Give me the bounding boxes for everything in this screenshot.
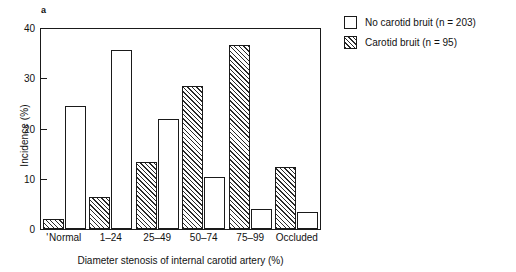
x-axis-category-labels: Normal1–2425–4950–7475–99Occluded xyxy=(40,232,321,248)
bar-bruit xyxy=(182,86,203,229)
legend-item-bruit: Carotid bruit (n = 95) xyxy=(344,36,476,49)
bar-no-bruit xyxy=(65,106,86,229)
bar-no-bruit xyxy=(251,209,272,229)
bar-no-bruit xyxy=(111,50,132,229)
y-tick-label: 40 xyxy=(24,23,35,34)
bar-group xyxy=(181,28,228,229)
bar-no-bruit xyxy=(158,119,179,229)
axis-bottom-line xyxy=(40,229,321,230)
x-axis-title: Diameter stenosis of internal carotid ar… xyxy=(40,255,321,266)
plot-area: 010203040 xyxy=(40,28,321,230)
x-category-label: Occluded xyxy=(276,232,318,243)
x-category-label: 75–99 xyxy=(236,232,264,243)
panel-label: a xyxy=(41,6,46,15)
bar-bruit xyxy=(229,45,250,229)
legend-swatch-hatched-icon xyxy=(344,36,357,49)
legend-item-no-bruit: No carotid bruit (n = 203) xyxy=(344,16,476,29)
x-category-label: 25–49 xyxy=(143,232,171,243)
bar-group xyxy=(41,28,88,229)
y-tick-label: 0 xyxy=(29,224,35,235)
bar-no-bruit xyxy=(297,212,318,229)
y-axis-title: Incidence (%) xyxy=(19,66,30,206)
legend-label-bruit: Carotid bruit (n = 95) xyxy=(365,36,457,49)
bar-series-container xyxy=(41,28,320,229)
legend-label-no-bruit: No carotid bruit (n = 203) xyxy=(365,16,476,29)
y-tick-label: 30 xyxy=(24,73,35,84)
x-category-label: Normal xyxy=(47,232,81,243)
axis-right-line xyxy=(320,28,321,230)
y-tick-label: 10 xyxy=(24,173,35,184)
bar-bruit xyxy=(136,162,157,229)
bar-no-bruit xyxy=(204,177,225,229)
bar-bruit xyxy=(275,167,296,229)
bar-group xyxy=(274,28,321,229)
bar-group xyxy=(88,28,135,229)
figure-root: a Incidence (%) 010203040 Normal1–2425–4… xyxy=(0,0,516,272)
y-tick-label: 20 xyxy=(24,123,35,134)
y-tick-mark xyxy=(41,229,47,230)
x-category-label: 50–74 xyxy=(190,232,218,243)
x-category-label: 1–24 xyxy=(100,232,122,243)
bar-bruit xyxy=(43,219,64,229)
bar-bruit xyxy=(89,197,110,229)
legend-swatch-open-icon xyxy=(344,16,357,29)
legend: No carotid bruit (n = 203) Carotid bruit… xyxy=(344,16,476,56)
bar-group xyxy=(227,28,274,229)
bar-group xyxy=(134,28,181,229)
